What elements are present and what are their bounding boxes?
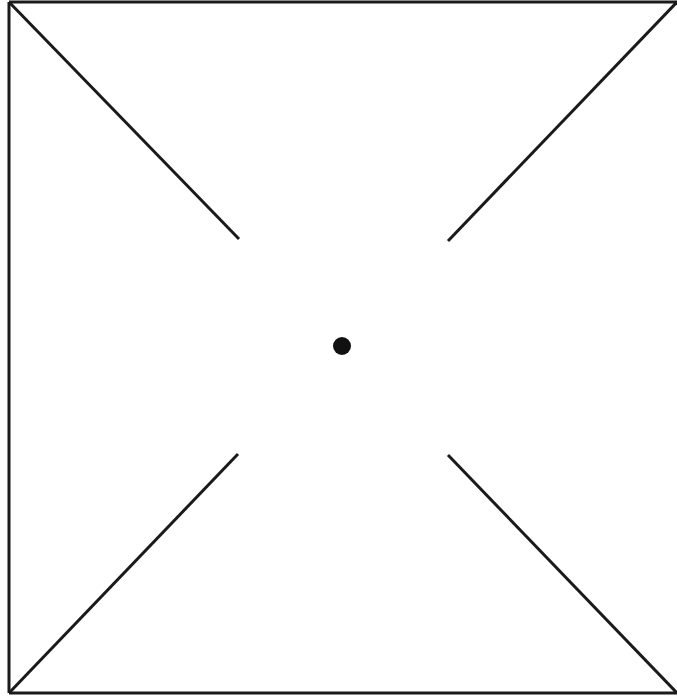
center-dot	[333, 337, 351, 355]
diagram-canvas	[0, 0, 677, 698]
